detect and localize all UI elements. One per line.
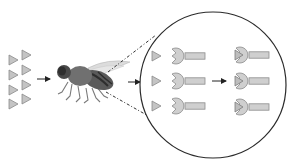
fly-illustration [57, 61, 130, 103]
magnified-view-circle [140, 12, 286, 158]
diagram-canvas [0, 0, 289, 163]
odorant-molecules [9, 50, 31, 109]
bound-receptors [235, 47, 269, 115]
diagram-svg [0, 0, 289, 163]
